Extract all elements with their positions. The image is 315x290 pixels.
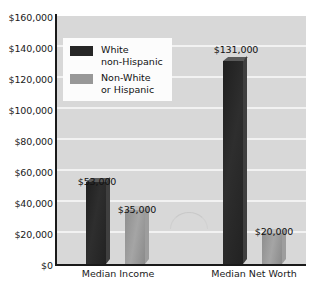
y-tick-60000: $60,000 xyxy=(1,167,53,178)
scan-artifact xyxy=(170,212,208,229)
bar-side-face xyxy=(243,56,247,264)
y-axis-line xyxy=(55,14,57,266)
bar-face xyxy=(223,61,243,264)
x-axis-ticks: Median Income Median Net Worth xyxy=(56,268,306,288)
y-axis-ticks: $160,000 $140,000 $120,000 $100,000 $80,… xyxy=(0,0,53,290)
gridline-100000 xyxy=(56,107,306,109)
y-tick-0: $0 xyxy=(1,260,53,271)
y-tick-160000: $160,000 xyxy=(1,12,53,23)
legend-swatch-icon-non-white-or-hispanic xyxy=(70,74,93,84)
bar-median-networth-nonwhite xyxy=(262,233,282,264)
bar-face xyxy=(262,233,282,264)
y-tick-40000: $40,000 xyxy=(1,198,53,209)
x-tick-median-net-worth: Median Net Worth xyxy=(211,268,297,279)
value-label-income-nonwhite: $35,000 xyxy=(118,204,157,215)
x-axis-line xyxy=(55,264,306,266)
y-tick-20000: $20,000 xyxy=(1,229,53,240)
y-tick-80000: $80,000 xyxy=(1,136,53,147)
y-tick-120000: $120,000 xyxy=(1,74,53,85)
legend-label-non-white-or-hispanic: Non-White or Hispanic xyxy=(101,72,154,95)
y-tick-140000: $140,000 xyxy=(1,43,53,54)
bar-median-networth-white xyxy=(223,61,243,264)
legend-item-non-white-or-hispanic: Non-White or Hispanic xyxy=(70,72,163,95)
legend: White non-Hispanic Non-White or Hispanic xyxy=(63,38,172,101)
bar-chart: $160,000 $140,000 $120,000 $100,000 $80,… xyxy=(0,0,315,290)
x-tick-median-income: Median Income xyxy=(82,268,155,279)
value-label-income-white: $53,000 xyxy=(78,176,117,187)
value-label-networth-nonwhite: $20,000 xyxy=(255,226,294,237)
legend-label-white-non-hispanic: White non-Hispanic xyxy=(101,44,163,67)
gridline-60000 xyxy=(56,169,306,171)
bar-median-income-white xyxy=(86,182,106,264)
value-label-networth-white: $131,000 xyxy=(214,44,259,55)
gridline-80000 xyxy=(56,138,306,140)
bar-median-income-nonwhite xyxy=(125,210,145,264)
bar-side-face xyxy=(106,177,110,264)
bar-face xyxy=(125,210,145,264)
legend-item-white-non-hispanic: White non-Hispanic xyxy=(70,44,163,67)
legend-swatch-icon-white-non-hispanic xyxy=(70,46,93,56)
y-tick-100000: $100,000 xyxy=(1,105,53,116)
bar-face xyxy=(86,182,106,264)
